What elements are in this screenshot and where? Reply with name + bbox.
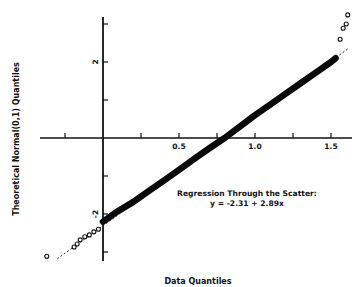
x-axis: 0.51.01.5 [40, 133, 352, 151]
x-tick-label: 1.5 [324, 142, 337, 151]
outlier-points [45, 13, 350, 258]
outlier-point [87, 233, 91, 237]
outlier-point [75, 242, 79, 246]
y-axis: 2-2 [91, 17, 108, 261]
y-tick-label: -2 [91, 210, 100, 218]
outlier-point [83, 235, 87, 239]
qq-plot: 0.51.01.5 2-2 Regression Through the Sca… [0, 0, 362, 287]
outlier-point [92, 230, 96, 234]
x-tick-labels: 0.51.01.5 [172, 142, 337, 151]
y-axis-label: Theoretical Normal(0,1) Quantiles [12, 62, 21, 216]
x-axis-label: Data Quantiles [164, 277, 231, 286]
outlier-point [346, 13, 350, 17]
outlier-point [338, 37, 342, 41]
regression-annotation-title: Regression Through the Scatter: [177, 189, 317, 198]
outlier-point [96, 227, 100, 231]
y-tick-label: 2 [91, 59, 100, 64]
outlier-point [78, 238, 82, 242]
outlier-point [341, 26, 345, 30]
regression-annotation-equation: y = -2.31 + 2.89x [210, 199, 284, 208]
outlier-point [45, 254, 49, 258]
x-tick-label: 0.5 [172, 142, 185, 151]
outlier-point [344, 22, 348, 26]
x-tick-label: 1.0 [248, 142, 261, 151]
